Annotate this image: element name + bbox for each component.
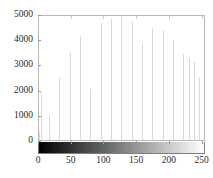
x-tick-label: 50 [66, 156, 76, 166]
x-tick-mark-top [169, 16, 170, 19]
x-tick-mark [136, 141, 137, 144]
x-axis: 050100150200250 [0, 156, 213, 174]
grayscale-colorbar [38, 142, 205, 154]
x-tick-label: 0 [36, 156, 41, 166]
x-tick-mark [103, 141, 104, 144]
y-tick-label: 1000 [14, 111, 33, 121]
y-tick-label: 3000 [14, 61, 33, 71]
x-tick-mark [202, 141, 203, 144]
x-tick-mark [38, 141, 39, 144]
x-tick-mark-top [71, 16, 72, 19]
x-tick-mark-top [136, 16, 137, 19]
y-tick-label: 4000 [14, 35, 33, 45]
y-tick-label: 5000 [14, 10, 33, 20]
histogram-bars [39, 16, 204, 140]
x-tick-mark [169, 141, 170, 144]
x-tick-label: 250 [195, 156, 209, 166]
plot-area [38, 15, 205, 141]
y-tick-mark [38, 40, 41, 41]
y-tick-mark [38, 116, 41, 117]
histogram-bars-svg [39, 16, 204, 140]
x-tick-mark-top [202, 16, 203, 19]
x-tick-label: 150 [129, 156, 143, 166]
y-tick-label: 2000 [14, 86, 33, 96]
x-tick-mark-top [38, 16, 39, 19]
y-tick-mark [38, 91, 41, 92]
x-tick-label: 200 [162, 156, 176, 166]
y-axis: 010002000300040005000 [0, 0, 36, 156]
x-tick-mark-top [103, 16, 104, 19]
y-tick-label: 0 [28, 136, 33, 146]
x-tick-label: 100 [96, 156, 110, 166]
y-tick-mark [38, 65, 41, 66]
histogram-figure: 010002000300040005000 050100150200250 [0, 0, 213, 178]
x-tick-mark [71, 141, 72, 144]
